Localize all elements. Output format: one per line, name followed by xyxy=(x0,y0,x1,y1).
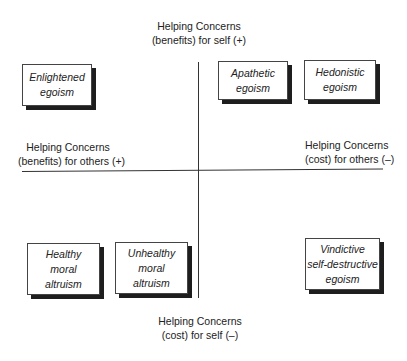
box-healthy-moral-altruism: Healthy moral altruism xyxy=(27,243,100,295)
axis-label-left-line1: Helping Concerns xyxy=(18,140,118,154)
box-text-line: egoism xyxy=(236,81,270,96)
axis-label-left-line2: (benefits) for others (+) xyxy=(18,154,118,168)
axis-label-top-line1: Helping Concerns xyxy=(144,19,254,33)
box-text-line: altruism xyxy=(133,276,170,291)
horizontal-axis-line xyxy=(22,168,383,172)
box-text-line: Unhealthy xyxy=(128,246,175,261)
box-hedonistic-egoism: Hedonistic egoism xyxy=(304,60,376,100)
axis-label-right-line1: Helping Concerns xyxy=(305,138,385,152)
box-text-line: Vindictive xyxy=(320,242,365,257)
axis-label-bottom: Helping Concerns (cost) for self (–) xyxy=(150,314,250,342)
vertical-axis-line xyxy=(198,62,199,298)
box-apathetic-egoism: Apathetic egoism xyxy=(218,61,288,100)
box-text-line: Enlightened xyxy=(29,70,84,85)
box-text-line: moral xyxy=(138,261,164,276)
axis-label-top-line2: (benefits) for self (+) xyxy=(144,33,254,47)
axis-label-bottom-line1: Helping Concerns xyxy=(150,314,250,328)
box-text-line: egoism xyxy=(326,272,360,287)
box-enlightened-egoism: Enlightened egoism xyxy=(22,64,92,106)
box-text-line: Healthy xyxy=(46,247,82,262)
box-text-line: egoism xyxy=(40,85,74,100)
axis-label-right-line2: (cost) for others (–) xyxy=(305,152,385,166)
axis-label-bottom-line2: (cost) for self (–) xyxy=(150,328,250,342)
box-vindictive-self-destructive-egoism: Vindictive self-destructive egoism xyxy=(305,238,380,290)
box-text-line: Hedonistic xyxy=(315,65,364,80)
axis-label-right: Helping Concerns (cost) for others (–) xyxy=(305,138,385,166)
box-text-line: moral xyxy=(50,262,76,277)
box-text-line: Apathetic xyxy=(231,66,275,81)
box-text-line: self-destructive xyxy=(307,257,378,272)
box-text-line: altruism xyxy=(45,277,82,292)
box-text-line: egoism xyxy=(323,80,357,95)
axis-label-top: Helping Concerns (benefits) for self (+) xyxy=(144,19,254,47)
box-unhealthy-moral-altruism: Unhealthy moral altruism xyxy=(115,242,188,294)
axis-label-left: Helping Concerns (benefits) for others (… xyxy=(18,140,118,168)
